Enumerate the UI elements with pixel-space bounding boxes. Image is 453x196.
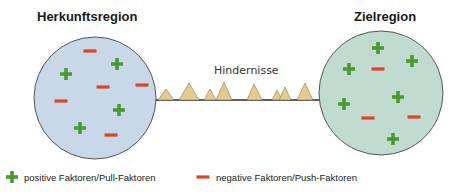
migration-diagram: Hindernisse Herkunftsregion Zielregion p…	[0, 0, 453, 196]
origin-region-circle	[34, 37, 156, 159]
origin-title: Herkunftsregion	[37, 9, 137, 24]
legend-negative-label: negative Faktoren/Push-Faktoren	[216, 172, 357, 183]
obstacle-triangle	[279, 87, 291, 100]
legend-minus-icon	[197, 175, 210, 178]
legend-positive-label: positive Faktoren/Pull-Faktoren	[24, 172, 155, 183]
legend: positive Faktoren/Pull-Faktoren negative…	[6, 171, 357, 183]
obstacle-triangle	[297, 83, 313, 100]
destination-title: Zielregion	[354, 9, 416, 24]
obstacle-triangle	[158, 89, 174, 100]
minus-icon	[408, 115, 421, 118]
obstacle-triangle	[247, 84, 262, 100]
minus-icon	[97, 85, 110, 88]
obstacles-label: Hindernisse	[214, 64, 279, 77]
obstacle-triangle	[204, 89, 216, 100]
minus-icon	[372, 67, 385, 70]
obstacle-triangle	[179, 83, 199, 100]
minus-icon	[84, 49, 97, 52]
minus-icon	[136, 83, 149, 86]
minus-icon	[105, 133, 118, 136]
legend-plus-icon	[6, 171, 18, 183]
minus-icon	[55, 99, 68, 102]
obstacles	[158, 82, 313, 100]
obstacle-triangle	[216, 82, 232, 100]
minus-icon	[362, 116, 375, 119]
